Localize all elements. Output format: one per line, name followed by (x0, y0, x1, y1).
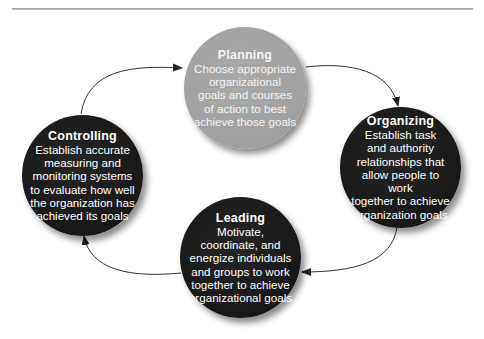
node-organizing-title: Organizing (367, 114, 434, 128)
node-organizing-description: Establish task and authority relationshi… (348, 128, 453, 220)
node-controlling-title: Controlling (48, 129, 117, 143)
arrow-leading-to-controlling (84, 236, 181, 274)
node-leading-description: Motivate, coordinate, and energize indiv… (189, 225, 292, 304)
node-planning-title: Planning (218, 48, 272, 62)
node-planning: Planning Choose appropriate organization… (184, 27, 306, 149)
node-leading-title: Leading (216, 211, 265, 225)
node-leading: Leading Motivate, coordinate, and energi… (180, 197, 301, 318)
node-controlling: Controlling Establish accurate measuring… (22, 115, 143, 236)
node-controlling-description: Establish accurate measuring and monitor… (30, 143, 134, 222)
arrow-organizing-to-leading (302, 227, 397, 272)
arrow-planning-to-organizing (306, 66, 398, 106)
arrow-controlling-to-planning (81, 67, 182, 114)
node-organizing: Organizing Establish task and authority … (340, 107, 461, 228)
node-planning-description: Choose appropriate organizational goals … (194, 62, 296, 128)
